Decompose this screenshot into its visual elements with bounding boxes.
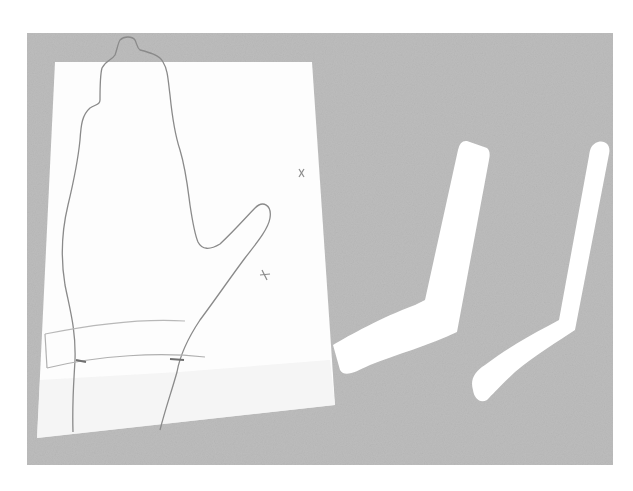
wrist-mark-right — [170, 359, 184, 360]
caption-area — [30, 478, 210, 484]
photo-scene — [27, 33, 613, 465]
photo-frame — [27, 33, 613, 465]
